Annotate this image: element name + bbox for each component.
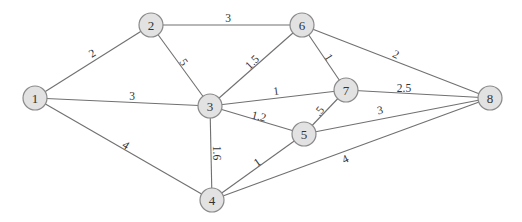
edge-weight-label: 1 — [272, 85, 280, 98]
node-4: 4 — [200, 188, 224, 212]
edge-weight-label: 1.2 — [251, 108, 268, 123]
node-8: 8 — [478, 86, 502, 110]
node-label: 1 — [32, 91, 39, 106]
node-6: 6 — [290, 13, 314, 37]
edge-5-8 — [304, 98, 490, 134]
node-1: 1 — [23, 86, 47, 110]
edge-weight-label: 2 — [86, 46, 97, 59]
node-label: 3 — [207, 99, 214, 114]
weighted-graph-diagram: 234351.511.21.6122.5.5314 12345678 — [0, 0, 522, 222]
edge-weight-label: 1 — [251, 155, 263, 168]
edge-weight-label: 3 — [129, 90, 135, 102]
node-3: 3 — [198, 94, 222, 118]
edge-weight-label: .5 — [312, 104, 327, 118]
edge-weight-label: 4 — [120, 138, 131, 151]
node-5: 5 — [292, 122, 316, 146]
node-label: 6 — [299, 18, 306, 33]
node-7: 7 — [334, 78, 358, 102]
node-2: 2 — [139, 13, 163, 37]
edge-weight-label: 3 — [225, 12, 231, 24]
edge-weight-label: 4 — [340, 152, 351, 165]
node-label: 8 — [487, 91, 494, 106]
edge-weight-label: 3 — [376, 103, 384, 116]
edge-weight-label: 2.5 — [397, 82, 412, 94]
edge-weight-label: 2 — [391, 47, 402, 60]
node-label: 4 — [209, 193, 216, 208]
edge-weight-label: 5 — [177, 56, 190, 68]
node-label: 5 — [301, 127, 308, 142]
edge-weight-label: 1 — [322, 51, 335, 62]
edge-1-3 — [35, 98, 210, 106]
node-label: 2 — [148, 18, 155, 33]
edge-1-2 — [35, 25, 151, 98]
node-label: 7 — [343, 83, 350, 98]
edge-weight-label: 1.6 — [211, 146, 223, 161]
edge-7-8 — [346, 90, 490, 98]
edge-weight-label: 1.5 — [243, 52, 262, 71]
